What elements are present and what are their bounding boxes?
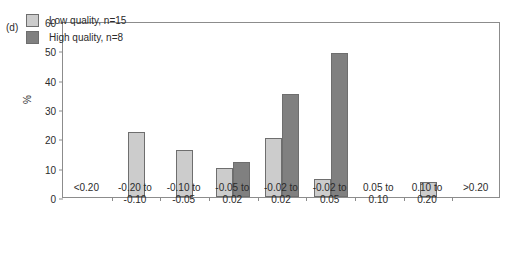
legend-item-high-quality: High quality, n=8	[26, 29, 126, 46]
x-axis-label-line: 0.10	[354, 194, 403, 206]
x-axis-label-line: 0.10 to	[403, 182, 452, 194]
y-tick-label: 30	[45, 106, 63, 117]
x-tick-mark	[452, 197, 453, 201]
x-axis-label-line: 0.05	[305, 194, 354, 206]
x-axis-label-line: <0.20	[62, 182, 111, 194]
y-tick-label: 0	[50, 194, 63, 205]
legend-swatch-high-quality	[26, 31, 39, 44]
legend-label-low-quality: Low quality, n=15	[49, 15, 126, 26]
panel-label: (d)	[6, 22, 18, 33]
y-tick-label: 20	[45, 135, 63, 146]
x-axis-label: >0.20	[451, 182, 500, 194]
x-axis-label: <0.20	[62, 182, 111, 194]
x-axis-label-line: -0.20 to	[111, 182, 160, 194]
x-axis-label: -0.02 to0.05	[305, 182, 354, 206]
x-axis-label: -0.10 to-0.05	[159, 182, 208, 206]
x-axis-label: -0.05 to0.02	[208, 182, 257, 206]
legend-item-low-quality: Low quality, n=15	[26, 12, 126, 29]
legend-label-high-quality: High quality, n=8	[49, 32, 123, 43]
x-axis-label-line: 0.05 to	[354, 182, 403, 194]
x-axis-label: 0.10 to0.20	[403, 182, 452, 206]
x-axis-label: 0.05 to0.10	[354, 182, 403, 206]
x-axis-label-line: -0.10 to	[159, 182, 208, 194]
x-axis-label-line: -0.02 to	[305, 182, 354, 194]
x-axis-label: -0.02 to0.02	[257, 182, 306, 206]
x-axis-label-line: -0.05	[159, 194, 208, 206]
x-axis-label-line: -0.05 to	[208, 182, 257, 194]
x-axis-label-line: >0.20	[451, 182, 500, 194]
x-axis-label: -0.20 to-0.10	[111, 182, 160, 206]
y-tick-label: 10	[45, 164, 63, 175]
figure-panel-d: (d) % 0102030405060 <0.20-0.20 to-0.10-0…	[0, 0, 519, 255]
x-axis-label-line: -0.02 to	[257, 182, 306, 194]
x-axis-label-line: -0.10	[111, 194, 160, 206]
x-axis-label-line: 0.02	[257, 194, 306, 206]
x-axis-label-line: 0.02	[208, 194, 257, 206]
bar-high-quality	[331, 53, 348, 197]
y-axis-label: %	[22, 95, 33, 104]
y-tick-label: 50	[45, 47, 63, 58]
legend-swatch-low-quality	[26, 14, 39, 27]
y-tick-label: 40	[45, 76, 63, 87]
plot-area: 0102030405060	[62, 22, 500, 198]
chart-legend: Low quality, n=15High quality, n=8	[26, 12, 126, 46]
x-axis-label-line: 0.20	[403, 194, 452, 206]
